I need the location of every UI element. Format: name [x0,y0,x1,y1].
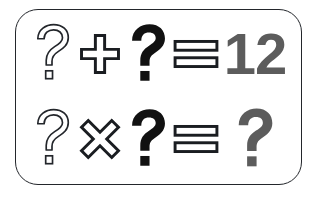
row2-operator-multiply[interactable] [75,118,125,160]
row1-operator-plus[interactable] [75,33,125,75]
plus-outline-icon [79,33,121,75]
row1-result[interactable]: 12 [222,25,288,83]
equation-row-2 [29,96,288,181]
puzzle-canvas: 12 [0,0,317,197]
equals-outline-icon [173,122,219,156]
row1-equals[interactable] [170,37,222,71]
row2-equals[interactable] [170,122,222,156]
question-mark-outline-icon [33,108,71,170]
equation-list: 12 [15,9,302,185]
row1-result-value: 12 [224,25,287,83]
row2-result[interactable] [222,108,288,170]
question-mark-solid-icon [130,23,166,85]
row2-operand-b[interactable] [126,108,170,170]
row1-operand-a[interactable] [29,23,75,85]
equation-row-1: 12 [29,11,288,96]
question-mark-outline-icon [33,23,71,85]
question-mark-gray-icon [236,108,274,170]
row2-operand-a[interactable] [29,108,75,170]
question-mark-solid-icon [130,108,166,170]
equals-outline-icon [173,37,219,71]
multiply-outline-icon [79,118,121,160]
row1-operand-b[interactable] [126,23,170,85]
